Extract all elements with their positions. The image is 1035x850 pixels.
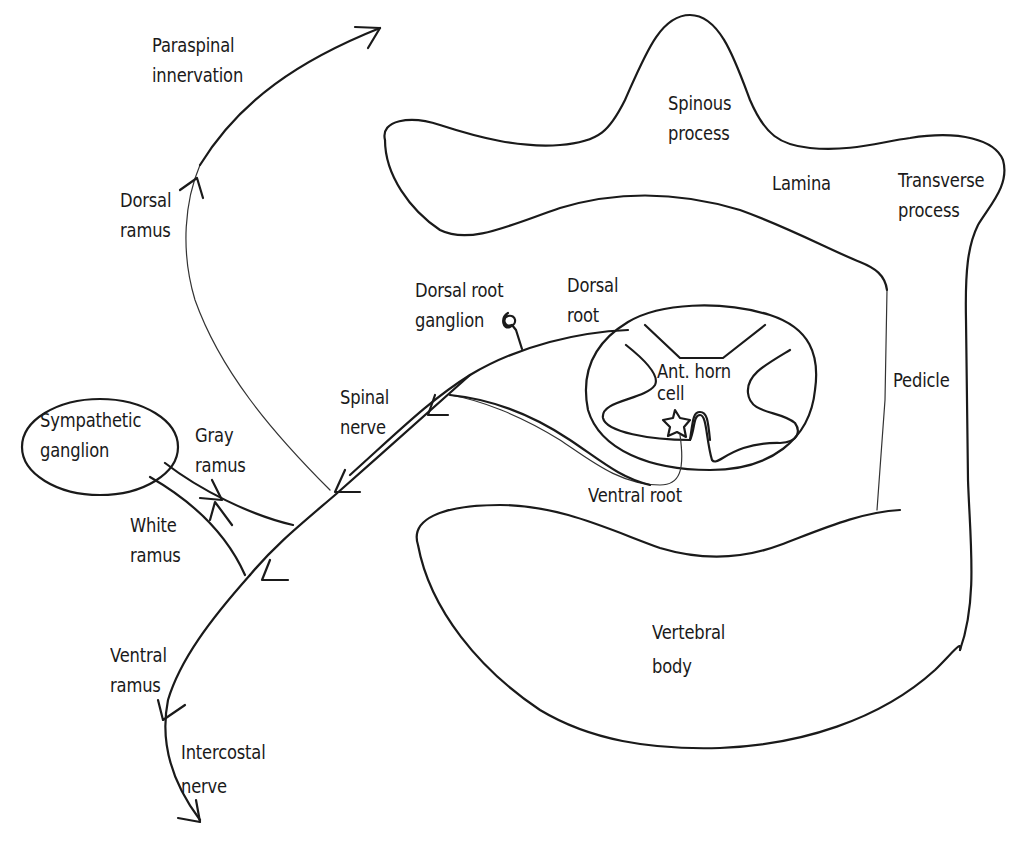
- label-line: Paraspinal: [152, 30, 243, 60]
- ventral-root-join: [450, 395, 650, 485]
- label-gray-ramus: Gray ramus: [195, 420, 246, 480]
- label-line: root: [567, 300, 618, 330]
- lamina-inner-outline: [385, 140, 887, 290]
- label-line: Dorsal: [120, 185, 171, 215]
- label-line: Dorsal: [567, 270, 618, 300]
- label-line: Sympathetic: [40, 405, 141, 435]
- label-ventral-root: Ventral root: [588, 480, 682, 510]
- label-line: Transverse: [898, 165, 984, 195]
- label-line: nerve: [181, 769, 266, 803]
- diagram-drawing: [0, 0, 1035, 850]
- label-lamina: Lamina: [772, 168, 831, 198]
- label-ventral-ramus: Ventral ramus: [110, 640, 167, 700]
- label-intercostal-nerve: Intercostal nerve: [181, 735, 266, 803]
- star-icon: [663, 410, 690, 437]
- pedicle-line: [877, 290, 887, 510]
- label-ant-horn-cell: Ant. horn cell: [657, 360, 731, 404]
- label-line: ganglion: [40, 435, 141, 465]
- label-line: Ant. horn: [657, 360, 731, 382]
- label-spinal-nerve: Spinal nerve: [340, 382, 389, 442]
- label-line: Spinous: [668, 88, 731, 118]
- label-white-ramus: White ramus: [130, 510, 181, 570]
- label-transverse-process: Transverse process: [898, 165, 984, 225]
- label-line: White: [130, 510, 181, 540]
- label-line: Intercostal: [181, 735, 266, 769]
- spiral-icon: [503, 313, 515, 327]
- ganglion-stem: [512, 325, 522, 349]
- label-sympathetic-ganglion: Sympathetic ganglion: [40, 405, 141, 465]
- label-line: Ventral: [110, 640, 167, 670]
- label-dorsal-root-ganglion: Dorsal root ganglion: [415, 275, 503, 335]
- label-line: Lamina: [772, 168, 831, 198]
- ventral-root-line: [450, 395, 682, 485]
- label-spinous-process: Spinous process: [668, 88, 731, 148]
- label-line: process: [668, 118, 731, 148]
- label-dorsal-root: Dorsal root: [567, 270, 618, 330]
- label-vertebral-body: Vertebral body: [652, 615, 725, 683]
- label-line: Pedicle: [893, 365, 950, 395]
- label-line: Gray: [195, 420, 246, 450]
- label-line: innervation: [152, 60, 243, 90]
- label-line: ramus: [130, 540, 181, 570]
- anatomy-diagram: Paraspinal innervation Dorsal ramus Spin…: [0, 0, 1035, 850]
- label-line: body: [652, 649, 725, 683]
- label-line: ramus: [110, 670, 167, 700]
- label-line: Dorsal root: [415, 275, 503, 305]
- label-paraspinal-innervation: Paraspinal innervation: [152, 30, 243, 90]
- label-line: Vertebral: [652, 615, 725, 649]
- label-pedicle: Pedicle: [893, 365, 950, 395]
- label-line: ganglion: [415, 305, 503, 335]
- label-line: ramus: [120, 215, 171, 245]
- label-line: cell: [657, 382, 731, 404]
- label-line: nerve: [340, 412, 389, 442]
- label-line: Spinal: [340, 382, 389, 412]
- label-line: Ventral root: [588, 480, 682, 510]
- label-line: process: [898, 195, 984, 225]
- label-line: ramus: [195, 450, 246, 480]
- gray-matter-dorsal: [645, 325, 765, 358]
- label-dorsal-ramus: Dorsal ramus: [120, 185, 171, 245]
